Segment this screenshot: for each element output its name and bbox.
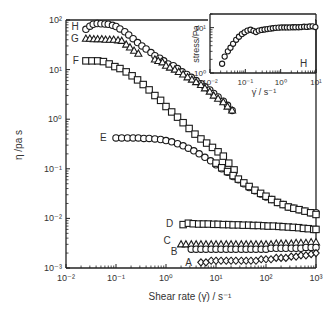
square-marker <box>157 97 163 103</box>
square-marker <box>313 226 319 232</box>
inset-x-tick-label: 10¹ <box>310 78 322 87</box>
main-x-tick-label: 10⁻² <box>57 273 75 283</box>
diamond-marker <box>303 252 309 259</box>
series-label-g: G <box>71 33 79 44</box>
circle-marker <box>219 61 224 66</box>
series-label-f: F <box>73 55 79 66</box>
inset-y-tick-label: 10⁰ <box>194 69 206 78</box>
inset-y-axis-label: stress/Pa <box>191 25 201 63</box>
inset-x-axis-label: γ̇ / s⁻¹ <box>252 87 277 97</box>
main-x-tick-label: 10² <box>259 273 272 283</box>
inset-x-tick-label: 10⁰ <box>275 78 287 87</box>
main-y-tick-label: 10⁰ <box>48 114 62 124</box>
series-f <box>83 58 238 173</box>
circle-marker <box>313 24 318 29</box>
series-label-d: D <box>166 218 173 229</box>
main-x-tick-label: 10⁰ <box>159 273 173 283</box>
square-marker <box>226 160 232 166</box>
square-marker <box>220 153 226 159</box>
square-marker <box>83 58 89 64</box>
inset-x-tick-label: 10⁻² <box>202 78 218 87</box>
viscosity-chart: 10⁻²10⁻¹10⁰10¹10²10³10²10¹10⁰10⁻¹10⁻²10⁻… <box>0 0 335 320</box>
main-x-tick-label: 10¹ <box>209 273 222 283</box>
square-marker <box>117 65 123 71</box>
main-y-tick-label: 10⁻² <box>44 213 62 223</box>
series-e-square-overlay <box>213 160 319 218</box>
series-label-h: H <box>72 21 79 32</box>
main-y-tick-label: 10² <box>49 15 62 25</box>
series-d <box>180 220 319 233</box>
y-axis-label: η /pa s <box>13 130 24 160</box>
series-label-c: C <box>164 235 171 246</box>
square-marker <box>313 211 319 217</box>
inset-x-tick-label: 10⁻¹ <box>238 78 254 87</box>
series-label-b: B <box>171 246 178 257</box>
inset-series-label-h: H <box>300 58 307 69</box>
diamond-marker <box>283 254 289 261</box>
main-y-tick-label: 10⁻³ <box>44 263 62 273</box>
main-y-tick-label: 10⁻¹ <box>44 164 62 174</box>
series-label-e: E <box>100 132 107 143</box>
inset-plot: 10⁻²10⁻¹10⁰10¹10¹10⁰ <box>194 14 322 87</box>
circle-marker <box>222 54 227 59</box>
square-marker <box>180 120 186 126</box>
main-x-tick-label: 10³ <box>309 273 322 283</box>
main-x-tick-label: 10⁻¹ <box>107 273 125 283</box>
series-label-a: A <box>185 257 192 268</box>
x-axis-label: Shear rate (γ̇) / s⁻¹ <box>149 291 232 302</box>
main-y-tick-label: 10¹ <box>49 65 62 75</box>
